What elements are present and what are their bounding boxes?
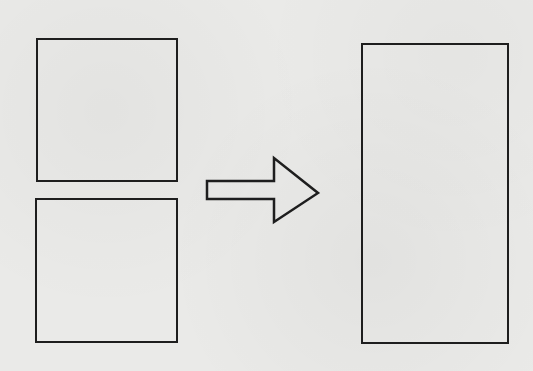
- diagram-canvas: [0, 0, 533, 371]
- right-tall-rectangle: [361, 43, 509, 344]
